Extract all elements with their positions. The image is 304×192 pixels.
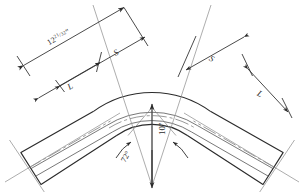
right-centerline	[194, 121, 276, 168]
right-vertex-ray	[152, 5, 211, 186]
apex-construction-left	[128, 108, 152, 136]
right-ext-3	[282, 98, 292, 118]
right-dimension-lines	[178, 36, 292, 118]
left-dimension-lines	[17, 8, 148, 99]
left-leg-mid-edge-1	[31, 126, 107, 169]
left-leg-mid-edge-2	[36, 132, 113, 176]
drawing-canvas: 1221/32" S L S L 72° 10"	[0, 0, 304, 192]
right-s-dim-line	[186, 37, 244, 70]
left-ext-2	[97, 52, 102, 72]
angle-arc-right	[173, 142, 188, 158]
right-leg-long-ray	[184, 113, 299, 182]
right-ext-1	[242, 54, 253, 76]
bend-radius-label: 10"	[158, 122, 167, 135]
left-leg-outline	[21, 112, 116, 185]
left-leg-long-ray	[5, 113, 120, 182]
left-ext-1	[56, 80, 65, 92]
right-ext-2	[178, 36, 196, 77]
right-leg-outline	[188, 112, 283, 185]
left-ext-4	[17, 56, 30, 76]
overall-dim-line	[24, 8, 125, 66]
right-leg-mid-edge-2	[191, 132, 268, 176]
left-ext-3	[124, 8, 148, 47]
left-centerline	[29, 121, 111, 168]
right-leg-mid-edge-1	[197, 126, 273, 169]
right-l-dim-line	[248, 69, 288, 112]
